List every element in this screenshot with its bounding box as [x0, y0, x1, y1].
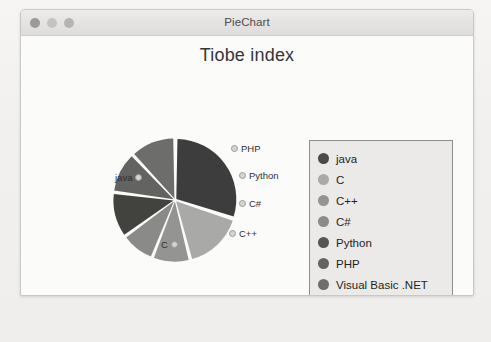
application-window: PieChart Tiobe index javaPHPPythonC#C++C…	[20, 9, 474, 296]
pie-slice-label: Python	[239, 170, 279, 181]
legend-item-label: Python	[336, 237, 372, 249]
close-window-button[interactable]	[30, 18, 40, 28]
legend-swatch-icon	[318, 216, 329, 227]
slice-label-text: C	[161, 239, 168, 250]
slice-label-text: PHP	[241, 143, 261, 154]
legend-item[interactable]: C	[318, 169, 444, 190]
legend-item-label: C	[336, 174, 344, 186]
slice-label-text: C#	[249, 198, 261, 209]
slice-label-marker-icon	[171, 241, 178, 248]
pie-slices	[113, 134, 289, 266]
legend-swatch-icon	[318, 174, 329, 185]
window-controls	[30, 10, 74, 35]
legend-item[interactable]: Visual Basic .NET	[318, 274, 444, 295]
legend-swatch-icon	[318, 195, 329, 206]
legend-swatch-icon	[318, 237, 329, 248]
legend-item-label: PHP	[336, 258, 360, 270]
chart-title: Tiobe index	[21, 36, 473, 66]
pie-slice-label: C	[161, 239, 178, 250]
window-titlebar[interactable]: PieChart	[21, 10, 473, 36]
window-body: Tiobe index javaPHPPythonC#C++C javaCC++…	[21, 36, 473, 294]
slice-label-marker-icon	[229, 230, 236, 237]
legend-item[interactable]: java	[318, 148, 444, 169]
legend-swatch-icon	[318, 153, 329, 164]
slice-label-marker-icon	[135, 174, 142, 181]
legend-item-label: Visual Basic .NET	[336, 279, 428, 291]
pie-slice-label: java	[115, 172, 142, 183]
slice-label-text: Python	[249, 170, 279, 181]
chart-legend: javaCC++C#PythonPHPVisual Basic .NET	[309, 140, 453, 296]
slice-label-text: java	[115, 172, 132, 183]
legend-item-label: C++	[336, 195, 358, 207]
minimize-window-button[interactable]	[47, 18, 57, 28]
legend-swatch-icon	[318, 258, 329, 269]
legend-item[interactable]: C#	[318, 211, 444, 232]
pie-slice-label: C#	[239, 198, 261, 209]
legend-item-label: C#	[336, 216, 351, 228]
pie-chart: javaPHPPythonC#C++C javaCC++C#PythonPHPV…	[21, 72, 473, 294]
pie-graphic: javaPHPPythonC#C++C	[113, 134, 289, 266]
pie-slice-label: PHP	[231, 143, 261, 154]
legend-item[interactable]: Python	[318, 232, 444, 253]
pie-slice-label: C++	[229, 228, 257, 239]
zoom-window-button[interactable]	[64, 18, 74, 28]
window-title: PieChart	[21, 10, 473, 35]
slice-label-marker-icon	[239, 172, 246, 179]
slice-label-text: C++	[239, 228, 257, 239]
slice-label-marker-icon	[231, 145, 238, 152]
slice-label-marker-icon	[239, 200, 246, 207]
legend-item[interactable]: PHP	[318, 253, 444, 274]
legend-swatch-icon	[318, 279, 329, 290]
legend-item-label: java	[336, 153, 357, 165]
legend-item[interactable]: C++	[318, 190, 444, 211]
